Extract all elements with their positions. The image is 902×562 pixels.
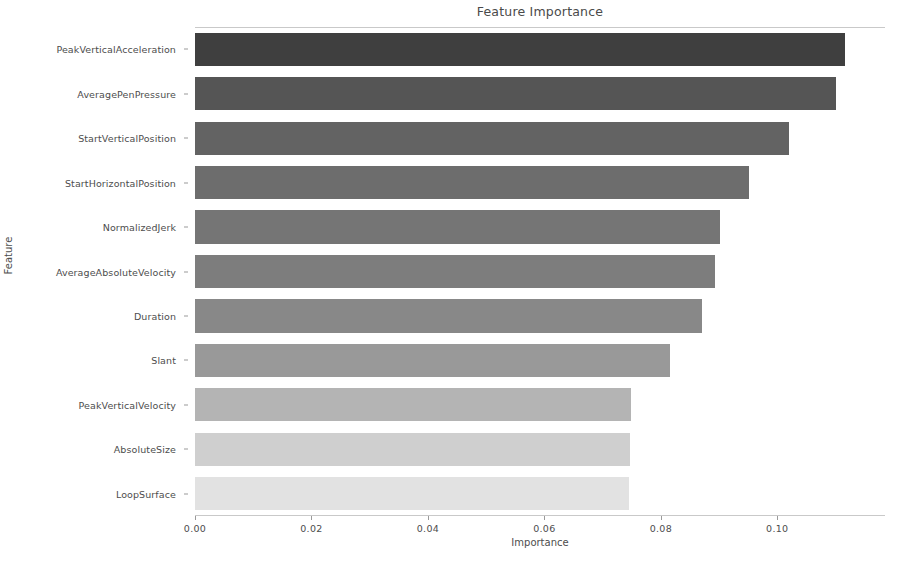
y-axis-tick-label: NormalizedJerk xyxy=(103,222,176,233)
y-axis-tick-labels: PeakVerticalAccelerationAveragePenPressu… xyxy=(0,27,188,516)
bar xyxy=(195,344,670,377)
x-axis-tick-label: 0.06 xyxy=(533,523,555,534)
bar-row xyxy=(195,344,885,377)
y-axis-tick-label: StartVerticalPosition xyxy=(78,133,176,144)
bar xyxy=(195,255,715,288)
plot-area xyxy=(195,27,885,516)
bar-row xyxy=(195,388,885,421)
bar-row xyxy=(195,210,885,243)
y-axis-tick-label: AveragePenPressure xyxy=(77,88,176,99)
y-axis-tick-mark xyxy=(184,138,188,139)
y-axis-tick-label: AverageAbsoluteVelocity xyxy=(56,266,176,277)
bar-row xyxy=(195,166,885,199)
bar xyxy=(195,166,749,199)
y-axis-tick-label: Slant xyxy=(151,355,176,366)
bar xyxy=(195,477,629,510)
x-axis-tick-labels: 0.000.020.040.060.080.10 xyxy=(195,516,885,538)
y-axis-tick-mark xyxy=(184,271,188,272)
x-axis-tick-label: 0.00 xyxy=(184,523,206,534)
x-axis-tick-label: 0.04 xyxy=(417,523,439,534)
y-axis-tick-label: PeakVerticalVelocity xyxy=(79,399,176,410)
y-axis-tick-mark xyxy=(184,227,188,228)
y-axis-tick-mark xyxy=(184,182,188,183)
y-axis-tick-label: LoopSurface xyxy=(116,488,176,499)
bar-row xyxy=(195,255,885,288)
bar xyxy=(195,388,631,421)
y-axis-tick-mark xyxy=(184,93,188,94)
bar-row xyxy=(195,77,885,110)
x-axis-tick-mark xyxy=(777,516,778,520)
x-axis-tick-mark xyxy=(311,516,312,520)
y-axis-tick-label: Duration xyxy=(134,310,176,321)
bar xyxy=(195,433,630,466)
y-axis-tick-mark xyxy=(184,449,188,450)
bar xyxy=(195,122,789,155)
bar xyxy=(195,210,720,243)
bar xyxy=(195,299,702,332)
y-axis-tick-mark xyxy=(184,493,188,494)
bar-row xyxy=(195,33,885,66)
x-axis-tick-label: 0.08 xyxy=(650,523,672,534)
x-axis-tick-mark xyxy=(544,516,545,520)
x-axis-tick-label: 0.02 xyxy=(300,523,322,534)
bar-row xyxy=(195,122,885,155)
y-axis-tick-mark xyxy=(184,360,188,361)
bar-row xyxy=(195,433,885,466)
y-axis-tick-mark xyxy=(184,49,188,50)
bar-row xyxy=(195,299,885,332)
x-axis-tick-mark xyxy=(428,516,429,520)
y-axis-tick-label: AbsoluteSize xyxy=(114,444,176,455)
y-axis-tick-label: PeakVerticalAcceleration xyxy=(56,44,176,55)
x-axis-label: Importance xyxy=(195,537,885,548)
bar xyxy=(195,33,845,66)
x-axis-tick-mark xyxy=(195,516,196,520)
x-axis-tick-label: 0.10 xyxy=(766,523,788,534)
chart-title: Feature Importance xyxy=(195,4,885,19)
y-axis-label: Feature xyxy=(3,226,14,286)
y-axis-tick-mark xyxy=(184,404,188,405)
bar-series xyxy=(195,27,885,516)
y-axis-tick-mark xyxy=(184,315,188,316)
feature-importance-figure: Feature Importance PeakVerticalAccelerat… xyxy=(0,0,902,562)
x-axis-tick-mark xyxy=(661,516,662,520)
bar-row xyxy=(195,477,885,510)
bar xyxy=(195,77,836,110)
y-axis-tick-label: StartHorizontalPosition xyxy=(65,177,176,188)
